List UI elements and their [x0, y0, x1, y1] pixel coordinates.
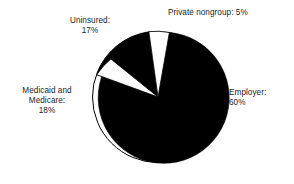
slice-label-employer: Employer: 60%	[229, 88, 293, 108]
slice-label-uninsured: Uninsured: 17%	[52, 16, 128, 36]
pie-chart: Private nongroup: 5% Uninsured: 17% Medi…	[0, 0, 294, 184]
slice-label-medicaid-medicare: Medicaid and Medicare: 18%	[4, 86, 90, 117]
slice-label-private-nongroup: Private nongroup: 5%	[168, 8, 290, 18]
